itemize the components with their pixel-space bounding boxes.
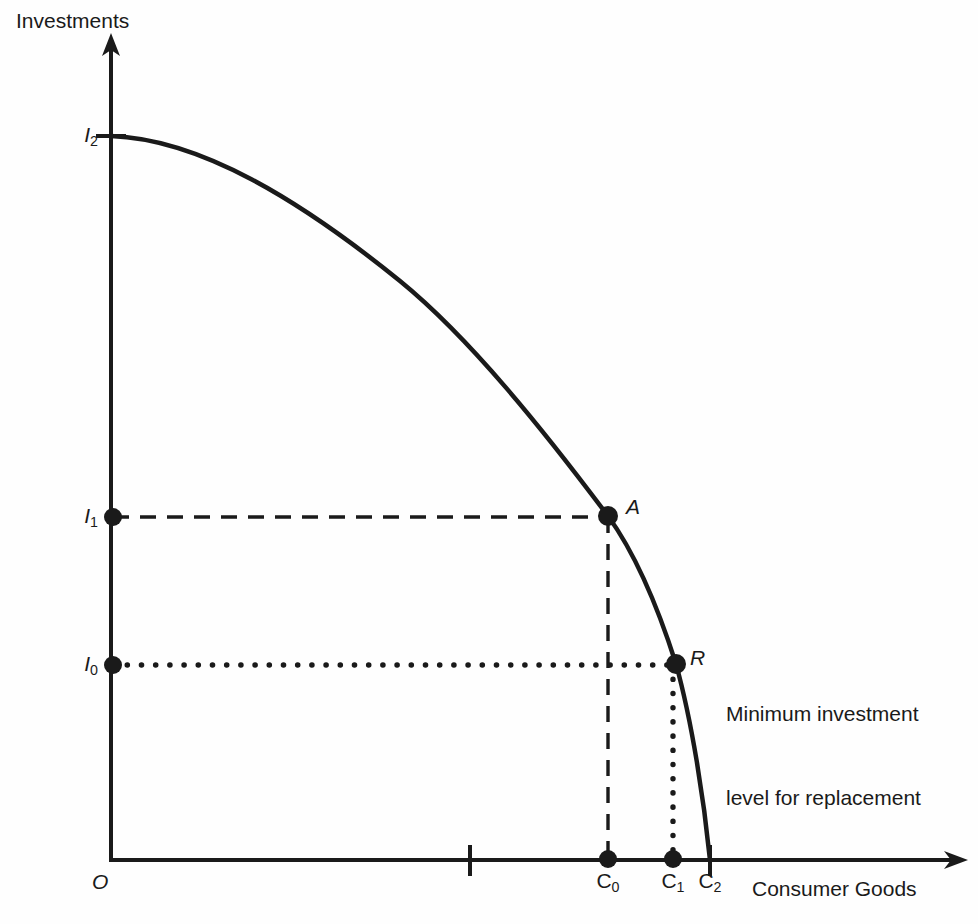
x-tick-label-C2: C2	[687, 868, 733, 897]
x-tick-sub-C0: 0	[612, 879, 620, 895]
x-tick-base-C2: C	[698, 869, 713, 892]
annotation-line-2: level for replacement	[726, 784, 921, 812]
marker-dot-I1	[104, 508, 122, 526]
y-axis-title: Investments	[16, 8, 129, 34]
ppf-curve	[111, 136, 710, 860]
marker-dot-C1	[664, 850, 682, 868]
marker-dot-I0	[104, 656, 122, 674]
marker-dot-R	[666, 654, 686, 674]
y-tick-sub-I0: 0	[90, 662, 98, 678]
y-axis	[102, 33, 120, 860]
x-tick-sub-C2: 2	[714, 879, 722, 895]
ppf-figure: Investments Consumer Goods O I2 I1 I0 C0…	[0, 0, 978, 924]
point-label-R: R	[690, 645, 705, 671]
x-axis-title: Consumer Goods	[752, 876, 917, 902]
annotation-line-1: Minimum investment	[726, 700, 921, 728]
marker-dot-A	[598, 506, 618, 526]
x-tick-base-C0: C	[596, 869, 611, 892]
x-tick-base-C1: C	[661, 869, 676, 892]
y-tick-sub-I2: 2	[90, 133, 98, 149]
y-tick-label-I0: I0	[56, 651, 98, 680]
y-tick-label-I1: I1	[56, 503, 98, 532]
x-tick-label-C0: C0	[585, 868, 631, 897]
annotation-min-investment: Minimum investment level for replacement	[726, 644, 921, 868]
origin-label: O	[92, 869, 108, 895]
x-tick-sub-C1: 1	[677, 879, 685, 895]
marker-dot-C0	[599, 850, 617, 868]
y-tick-sub-I1: 1	[90, 514, 98, 530]
y-tick-label-I2: I2	[56, 122, 98, 151]
point-label-A: A	[626, 494, 640, 520]
